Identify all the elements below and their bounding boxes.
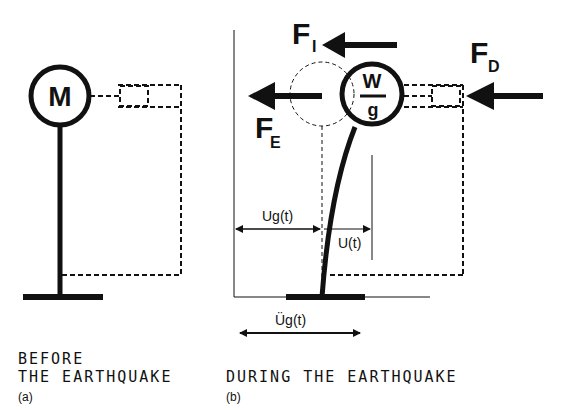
caption-before-line2: THE EARTHQUAKE bbox=[18, 368, 172, 386]
svg-text:F: F bbox=[470, 36, 488, 69]
force-damping: F D bbox=[466, 36, 543, 110]
ground-acceleration-label: Üg(t) bbox=[275, 311, 306, 328]
force-inertia: F I bbox=[292, 17, 397, 58]
svg-text:E: E bbox=[270, 134, 281, 151]
deflected-column bbox=[322, 127, 355, 297]
sublabel-b: (b) bbox=[226, 390, 241, 404]
mass-numerator: W bbox=[363, 70, 382, 92]
earthquake-sdof-diagram: M W g bbox=[0, 0, 565, 410]
force-elastic: F E bbox=[248, 82, 322, 151]
relative-displacement-label: U(t) bbox=[338, 235, 361, 251]
svg-text:F: F bbox=[292, 17, 310, 50]
panel-b-structure: W g Ug(t) U(t) Üg(t) bbox=[234, 30, 463, 333]
panel-a-structure: M bbox=[23, 67, 181, 297]
svg-text:D: D bbox=[488, 58, 500, 75]
mass-denominator: g bbox=[368, 100, 379, 120]
sublabel-a: (a) bbox=[18, 390, 33, 404]
caption-during: DURING THE EARTHQUAKE bbox=[226, 368, 458, 386]
ground-displacement-label: Ug(t) bbox=[262, 208, 293, 224]
svg-text:I: I bbox=[312, 38, 316, 55]
mass-label-m: M bbox=[48, 81, 71, 112]
damper-a bbox=[62, 85, 181, 275]
caption-before-line1: BEFORE bbox=[18, 350, 84, 368]
